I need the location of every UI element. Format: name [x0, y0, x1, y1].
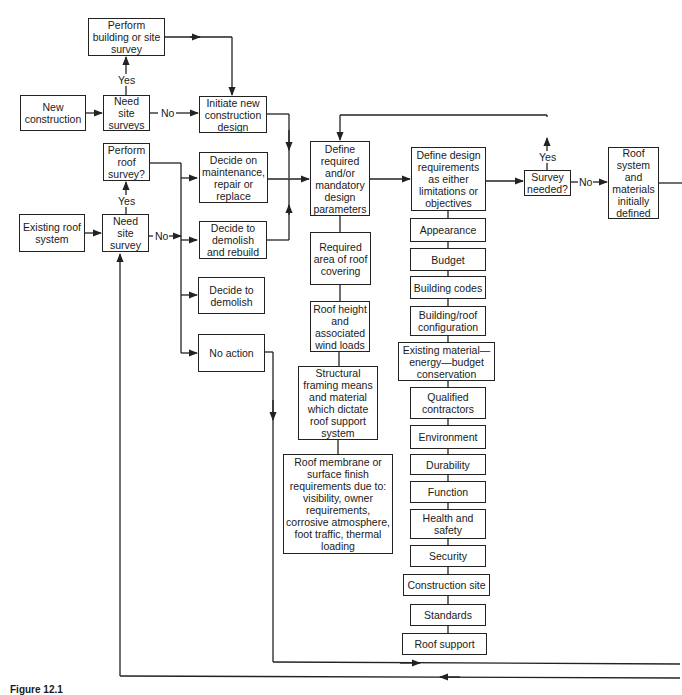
req-security: Security — [410, 545, 486, 567]
node-structural-framing: Structural framing means and material wh… — [298, 366, 378, 440]
figure-caption: Figure 12.1 — [10, 684, 63, 695]
edge-label-no-survey: No — [578, 176, 593, 188]
req-function: Function — [410, 481, 486, 503]
node-existing-roof-system: Existing roof system — [19, 214, 85, 252]
req-standards: Standards — [410, 604, 486, 626]
edge-label-yes-existing: Yes — [117, 195, 136, 207]
edge-label-yes-new: Yes — [117, 74, 136, 86]
node-perform-roof-survey: Perform roof survey? — [103, 143, 150, 181]
req-building-codes: Building codes — [410, 276, 486, 299]
node-decide-demolish-rebuild: Decide to demolish and rebuild — [199, 221, 267, 259]
req-existing-material: Existing material—energy—budget conserva… — [398, 342, 495, 381]
node-need-site-surveys: Need site surveys — [103, 95, 150, 131]
node-decide-demolish: Decide to demolish — [198, 277, 265, 314]
node-define-parameters: Define required and/or mandatory design … — [310, 141, 370, 216]
req-appearance: Appearance — [410, 218, 486, 242]
node-need-site-survey: Need site survey — [102, 214, 149, 252]
node-roof-height: Roof height and associated wind loads — [310, 301, 370, 352]
node-required-area: Required area of roof covering — [310, 232, 371, 285]
req-construction-site: Construction site — [403, 574, 490, 596]
edge-label-no-existing: No — [154, 230, 169, 242]
req-durability: Durability — [410, 454, 486, 475]
node-initiate-new-design: Initiate new construction design — [199, 96, 267, 133]
req-qualified-contractors: Qualified contractors — [410, 387, 486, 419]
edge-label-no-new: No — [160, 107, 175, 119]
node-decide-maintenance: Decide on maintenance, repair or replace — [199, 152, 268, 203]
node-roof-system-defined: Roof system and materials initially defi… — [608, 147, 659, 219]
req-building-roof-configuration: Building/roof configuration — [410, 306, 486, 336]
req-health-safety: Health and safety — [410, 509, 486, 539]
req-environment: Environment — [410, 425, 486, 449]
edge-label-yes-survey: Yes — [538, 151, 557, 163]
node-new-construction: New construction — [20, 95, 86, 131]
node-survey-needed: Survey needed? — [524, 170, 571, 196]
node-roof-membrane: Roof membrane or surface finish requirem… — [283, 454, 393, 554]
req-roof-support: Roof support — [402, 633, 487, 655]
node-perform-building-survey: Perform building or site survey — [88, 18, 165, 56]
node-define-requirements: Define design requirements as either lim… — [411, 147, 486, 211]
req-budget: Budget — [410, 248, 486, 271]
node-no-action: No action — [198, 334, 265, 372]
